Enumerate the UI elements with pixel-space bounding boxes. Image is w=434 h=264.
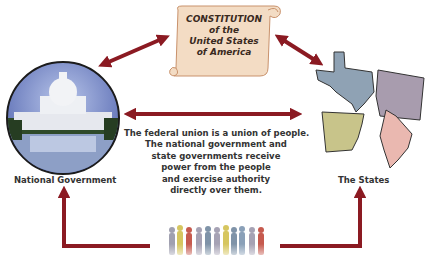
- description-line: directly over them.: [124, 185, 308, 196]
- the-states-label: The States: [338, 175, 389, 185]
- national-government-image: [0, 62, 130, 174]
- description-line: The federal union is a union of people.: [124, 128, 308, 139]
- federal-union-description: The federal union is a union of people. …: [124, 128, 308, 196]
- constitution-line: CONSTITUTION: [180, 14, 268, 25]
- constitution-line: of the: [180, 25, 268, 36]
- description-line: state governments receive: [124, 151, 308, 162]
- constitution-line: of America: [180, 47, 268, 58]
- constitution-line: United States: [180, 36, 268, 47]
- description-line: and exercise authority: [124, 174, 308, 185]
- states-image: [316, 52, 424, 168]
- description-line: power from the people: [124, 162, 308, 173]
- description-line: The national government and: [124, 139, 308, 150]
- arrow-people-national: [64, 192, 150, 246]
- arrow-constitution-states: [280, 38, 318, 62]
- arrow-national-constitution: [104, 38, 164, 64]
- national-government-label: National Government: [14, 175, 116, 185]
- arrow-people-states: [280, 192, 360, 246]
- people-crowd-image: [164, 225, 270, 260]
- constitution-text: CONSTITUTION of the United States of Ame…: [180, 14, 268, 58]
